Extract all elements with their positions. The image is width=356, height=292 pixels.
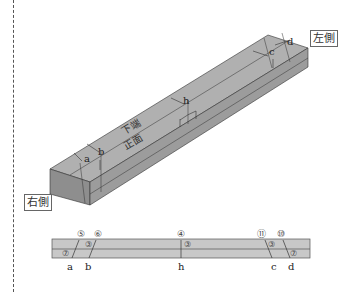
circled-10: ⑩ (277, 229, 285, 239)
strip-label-h: h (178, 261, 185, 272)
inner-mark-3-b: ③ (85, 240, 92, 249)
beam-diagram: a b h c d 下端 正面 ⑤ ⑥ ④ ⑪ ⑩ ⑦ ③ ③ ③ ⑦ a b … (0, 0, 356, 292)
strip-label-c: c (271, 261, 277, 272)
isometric-beam (50, 33, 308, 205)
right-side-label: 右側 (24, 194, 52, 211)
strip-label-a: a (67, 261, 73, 272)
iso-label-b: b (98, 146, 104, 157)
circled-11: ⑪ (257, 229, 266, 239)
iso-label-d: d (287, 36, 294, 47)
inner-mark-7-right: ⑦ (290, 249, 297, 258)
strip-label-b: b (85, 261, 91, 272)
inner-mark-7-left: ⑦ (62, 249, 69, 258)
iso-label-a: a (84, 153, 90, 164)
circled-6: ⑥ (94, 229, 102, 239)
iso-label-c: c (269, 46, 275, 57)
circled-4: ④ (177, 229, 185, 239)
inner-mark-3-c: ③ (268, 240, 275, 249)
circled-5: ⑤ (77, 229, 85, 239)
inner-mark-3-h: ③ (184, 240, 191, 249)
iso-label-h: h (183, 95, 190, 106)
strip-label-d: d (288, 261, 295, 272)
left-side-label: 左側 (310, 30, 338, 47)
